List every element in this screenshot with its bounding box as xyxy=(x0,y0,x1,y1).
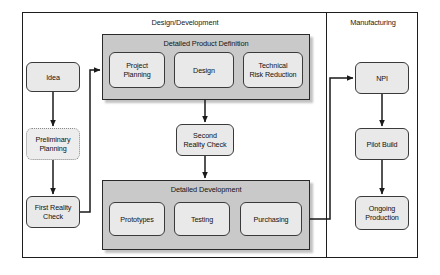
node-testing[interactable]: Testing xyxy=(174,202,230,236)
node-pilot-build-label: Pilot Build xyxy=(367,140,398,149)
node-first-reality-check[interactable]: First Reality Check xyxy=(26,196,80,228)
node-ongoing-production-label-line2: Production xyxy=(365,213,398,222)
node-preliminary-planning-label-line2: Planning xyxy=(36,144,71,153)
node-project-planning[interactable]: Project Planning xyxy=(109,52,165,88)
node-purchasing[interactable]: Purchasing xyxy=(240,202,302,236)
node-second-reality-check-label-line2: Reality Check xyxy=(183,140,226,149)
node-npi-label: NPI xyxy=(376,74,388,83)
node-testing-label: Testing xyxy=(191,215,213,224)
node-idea-label: Idea xyxy=(46,73,60,82)
section-title-manufacturing: Manufacturing xyxy=(330,18,416,27)
node-second-reality-check[interactable]: Second Reality Check xyxy=(176,124,234,156)
group-label-detailed-product-definition: Detailed Product Definition xyxy=(103,39,309,48)
node-technical-risk-reduction-label-line1: Technical xyxy=(250,61,297,70)
node-first-reality-check-label-line2: Check xyxy=(35,212,72,221)
node-pilot-build[interactable]: Pilot Build xyxy=(355,128,409,160)
node-design[interactable]: Design xyxy=(174,52,234,88)
node-design-label: Design xyxy=(193,66,215,75)
node-project-planning-label-line2: Planning xyxy=(123,70,150,79)
process-flow-diagram: Design/Development Manufacturing Detaile… xyxy=(0,0,440,275)
node-npi[interactable]: NPI xyxy=(355,62,409,94)
node-ongoing-production[interactable]: Ongoing Production xyxy=(355,196,409,230)
node-first-reality-check-label-line1: First Reality xyxy=(35,203,72,212)
section-divider xyxy=(326,12,327,258)
node-purchasing-label: Purchasing xyxy=(254,215,289,224)
group-label-detailed-development: Detailed Development xyxy=(103,185,309,194)
node-prototypes[interactable]: Prototypes xyxy=(109,202,165,236)
section-title-design-development: Design/Development xyxy=(110,18,260,27)
node-second-reality-check-label-line1: Second xyxy=(183,131,226,140)
node-technical-risk-reduction[interactable]: Technical Risk Reduction xyxy=(243,52,303,88)
node-prototypes-label: Prototypes xyxy=(120,215,153,224)
node-preliminary-planning[interactable]: Preliminary Planning xyxy=(26,128,80,160)
node-idea[interactable]: Idea xyxy=(26,62,80,92)
node-project-planning-label-line1: Project xyxy=(123,61,150,70)
node-ongoing-production-label-line1: Ongoing xyxy=(365,204,398,213)
node-technical-risk-reduction-label-line2: Risk Reduction xyxy=(250,70,297,79)
node-preliminary-planning-label-line1: Preliminary xyxy=(36,135,71,144)
